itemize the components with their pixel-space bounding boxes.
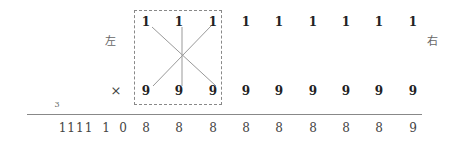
top-digit: 1: [275, 16, 283, 28]
left-label: 左: [105, 36, 116, 47]
top-digit: 1: [342, 16, 350, 28]
times-sign: ×: [111, 84, 122, 97]
bottom-digit: 9: [309, 85, 317, 97]
bottom-digit: 9: [342, 85, 350, 97]
result-digit: 8: [242, 122, 250, 134]
bottom-digit: 9: [275, 85, 283, 97]
carry-digit: 3: [54, 101, 59, 109]
right-label: 右: [427, 36, 438, 47]
bottom-digit: 9: [142, 85, 150, 97]
top-digit: 1: [142, 16, 150, 28]
result-digit: 8: [209, 122, 217, 134]
top-digit: 1: [309, 16, 317, 28]
top-digit: 1: [175, 16, 183, 28]
result-digit: 9: [409, 122, 417, 134]
bottom-digit: 9: [242, 85, 250, 97]
result-prefix: 1111: [59, 122, 94, 134]
result-prefix: 1: [102, 122, 110, 134]
top-digit: 1: [409, 16, 417, 28]
result-digit: 8: [142, 122, 150, 134]
bottom-digit: 9: [209, 85, 217, 97]
result-prefix: 0: [119, 122, 127, 134]
top-digit: 1: [242, 16, 250, 28]
bottom-digit: 9: [175, 85, 183, 97]
top-digit: 1: [209, 16, 217, 28]
bottom-digit: 9: [409, 85, 417, 97]
result-digit: 8: [342, 122, 350, 134]
sum-line: [27, 114, 422, 115]
result-digit: 8: [309, 122, 317, 134]
top-digit: 1: [375, 16, 383, 28]
result-digit: 8: [375, 122, 383, 134]
bottom-digit: 9: [375, 85, 383, 97]
result-digit: 8: [175, 122, 183, 134]
result-digit: 8: [275, 122, 283, 134]
